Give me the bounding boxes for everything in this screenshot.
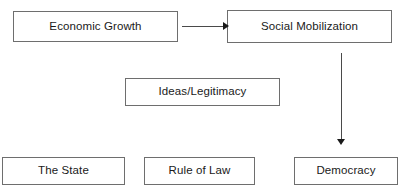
arrow-mobilization-to-democracy-head [337,139,345,145]
arrow-mobilization-to-democracy-line [341,53,342,140]
node-social-mobilization-label: Social Mobilization [261,21,358,33]
node-ideas-legitimacy[interactable]: Ideas/Legitimacy [125,78,280,106]
node-ideas-legitimacy-label: Ideas/Legitimacy [159,86,247,98]
node-rule-of-law[interactable]: Rule of Law [144,157,255,185]
arrow-growth-to-mobilization-line [182,26,224,27]
node-democracy[interactable]: Democracy [294,157,398,185]
flow-diagram-canvas: Economic Growth Social Mobilization Idea… [0,0,405,192]
node-democracy-label: Democracy [316,165,375,177]
node-economic-growth[interactable]: Economic Growth [13,11,178,42]
node-economic-growth-label: Economic Growth [49,21,141,33]
node-the-state-label: The State [38,165,89,177]
arrow-growth-to-mobilization-head [223,22,229,30]
node-the-state[interactable]: The State [2,157,125,185]
node-rule-of-law-label: Rule of Law [169,165,231,177]
node-social-mobilization[interactable]: Social Mobilization [227,10,392,43]
